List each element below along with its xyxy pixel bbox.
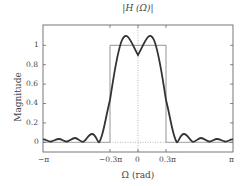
x-axis-label: Ω (rad) bbox=[0, 170, 245, 180]
x-tick-label: 0.3π bbox=[159, 155, 176, 164]
y-axis-label: Magnitude bbox=[13, 67, 23, 127]
y-tick-label: 0 bbox=[34, 137, 39, 146]
y-tick-label: 0.6 bbox=[26, 79, 38, 88]
y-tick-label: 0.8 bbox=[26, 60, 38, 69]
response-curve-series bbox=[43, 36, 233, 142]
y-tick-label: 0.2 bbox=[26, 118, 38, 127]
x-tick-label: −0.3π bbox=[99, 155, 122, 164]
y-tick-label: 1 bbox=[34, 40, 39, 49]
magnitude-response-chart bbox=[0, 0, 245, 186]
chart-title: |H (Ω)| bbox=[0, 3, 245, 13]
x-tick-label: 0 bbox=[135, 155, 140, 164]
x-tick-label: π bbox=[229, 155, 234, 164]
y-tick-label: 0.4 bbox=[26, 98, 38, 107]
x-tick-label: −π bbox=[38, 155, 49, 164]
